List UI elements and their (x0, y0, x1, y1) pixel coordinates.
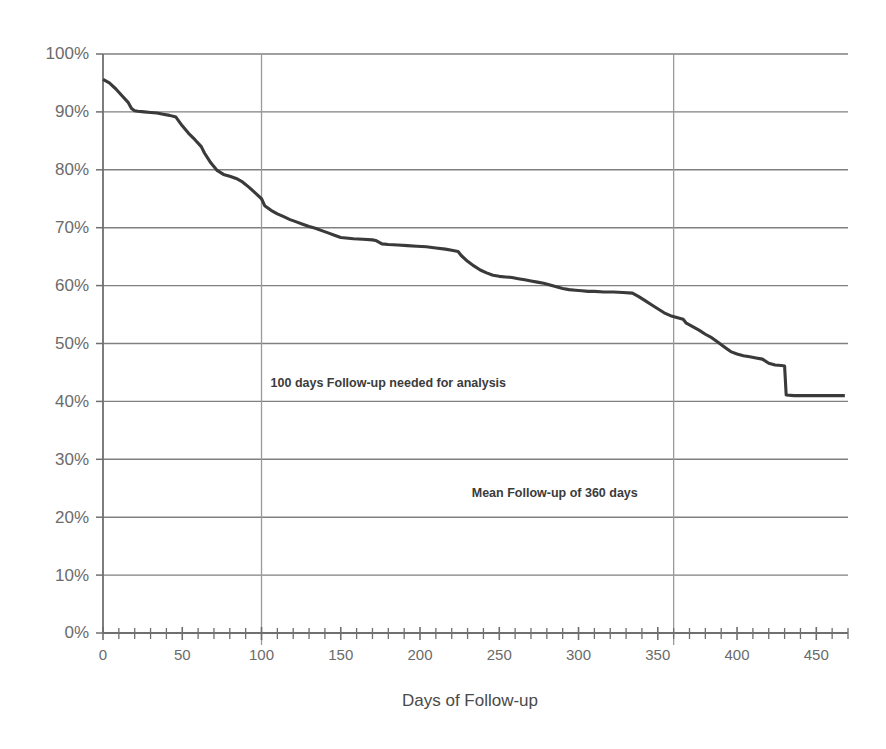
series-line-0 (103, 79, 845, 395)
x-tick-label-400: 400 (725, 646, 750, 663)
x-tick-label-200: 200 (408, 646, 433, 663)
y-tick-label-10: 10% (55, 566, 89, 585)
y-axis (96, 54, 103, 633)
mean-followup-note: Mean Follow-up of 360 days (472, 486, 638, 500)
x-tick-label-250: 250 (487, 646, 512, 663)
follow-up-survival-chart: 0%10%20%30%40%50%60%70%80%90%100% 050100… (0, 0, 886, 749)
x-axis (103, 627, 848, 640)
chart-annotations: 100 days Follow-up needed for analysisMe… (271, 376, 638, 500)
x-tick-label-0: 0 (99, 646, 107, 663)
x-tick-label-350: 350 (645, 646, 670, 663)
y-tick-label-100: 100% (46, 44, 89, 63)
x-tick-label-150: 150 (328, 646, 353, 663)
y-tick-label-30: 30% (55, 450, 89, 469)
x-tick-label-100: 100 (249, 646, 274, 663)
x-axis-tick-labels: 050100150200250300350400450 (99, 646, 829, 663)
horizontal-gridlines (103, 54, 848, 633)
y-tick-label-80: 80% (55, 160, 89, 179)
y-tick-label-20: 20% (55, 508, 89, 527)
y-tick-label-40: 40% (55, 392, 89, 411)
x-tick-label-300: 300 (566, 646, 591, 663)
data-series-group (103, 79, 845, 395)
y-tick-label-70: 70% (55, 218, 89, 237)
x-tick-label-50: 50 (174, 646, 191, 663)
y-tick-label-50: 50% (55, 334, 89, 353)
vertical-reference-lines (262, 54, 674, 645)
followup-needed-note: 100 days Follow-up needed for analysis (271, 376, 507, 390)
y-tick-label-90: 90% (55, 102, 89, 121)
chart-container: 0%10%20%30%40%50%60%70%80%90%100% 050100… (0, 0, 886, 749)
x-tick-label-450: 450 (804, 646, 829, 663)
y-tick-label-60: 60% (55, 276, 89, 295)
y-axis-tick-labels: 0%10%20%30%40%50%60%70%80%90%100% (46, 44, 89, 642)
y-tick-label-0: 0% (64, 623, 89, 642)
x-axis-title: Days of Follow-up (402, 691, 538, 710)
